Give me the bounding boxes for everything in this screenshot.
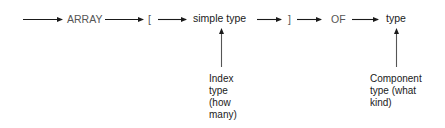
annotation-line: type: [209, 85, 237, 97]
annotation-line: Index: [209, 73, 237, 85]
close-bracket: ]: [288, 13, 291, 25]
keyword-array: ARRAY: [67, 13, 102, 25]
annotation-line: type (what: [370, 85, 422, 97]
open-bracket: [: [148, 13, 151, 25]
keyword-of: OF: [331, 13, 346, 25]
annotation-line: many): [209, 109, 237, 121]
annotation-line: kind): [370, 97, 422, 109]
annotation-line: Component: [370, 73, 422, 85]
simple-type-node: simple type: [193, 12, 246, 24]
type-node: type: [386, 12, 406, 24]
index-type-annotation: Index type (how many): [209, 73, 237, 121]
component-type-annotation: Component type (what kind): [370, 73, 422, 109]
annotation-line: (how: [209, 97, 237, 109]
